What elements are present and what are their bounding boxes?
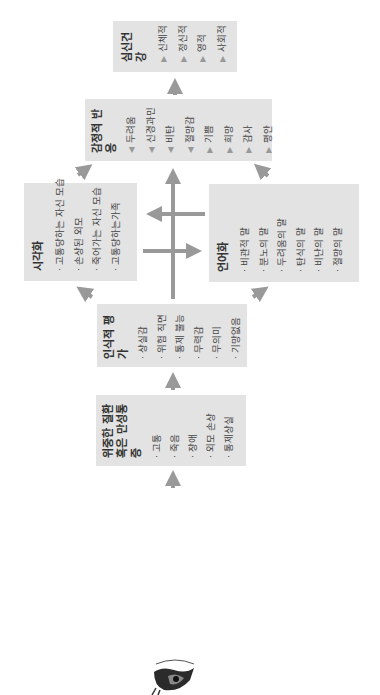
arrow-diagonal bbox=[78, 169, 86, 175]
arrow-diagonal bbox=[260, 169, 268, 176]
eye-icon bbox=[150, 658, 200, 695]
flow-arrows bbox=[0, 0, 380, 695]
arrow-diagonal bbox=[83, 291, 92, 297]
arrow-diagonal bbox=[253, 291, 262, 297]
eye-illustration bbox=[150, 658, 200, 695]
